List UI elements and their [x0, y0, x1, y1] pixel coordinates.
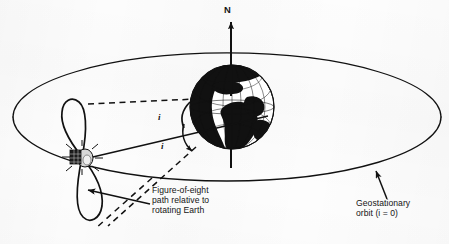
geostationary-leader-arrow — [376, 171, 387, 199]
diagram-canvas: N i i Figure-of-eight path relative to r… — [0, 0, 449, 244]
figure-of-eight-caption-line3: rotating Earth — [152, 206, 209, 216]
dashed-orbit-plane-line — [88, 99, 196, 104]
north-label: N — [224, 5, 231, 15]
earth-globe — [177, 58, 276, 179]
geostationary-caption-line2: orbit (i = 0) — [356, 209, 410, 219]
inclination-label-lower: i — [161, 142, 164, 152]
figure-of-eight-caption: Figure-of-eight path relative to rotatin… — [152, 186, 209, 215]
inclination-label-upper: i — [158, 113, 161, 123]
satellite-icon — [62, 140, 103, 175]
geostationary-caption: Geostationary orbit (i = 0) — [356, 199, 410, 219]
